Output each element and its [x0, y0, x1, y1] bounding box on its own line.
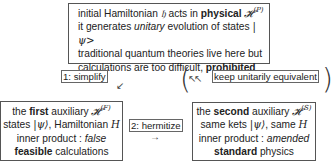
bold-second: second	[214, 106, 250, 117]
text: inner product :	[17, 133, 85, 144]
text: it generates	[78, 21, 134, 32]
text: , same	[265, 119, 298, 130]
text: same kets	[201, 119, 250, 130]
ket-symbol: |ψ⟩	[33, 119, 48, 130]
arrow-right-icon: →	[150, 131, 160, 142]
hilbert-space-symbol: 𝓗	[292, 106, 301, 117]
text: auxiliary	[48, 106, 91, 117]
text: acts in	[166, 8, 201, 19]
top-line-2: it generates unitary evolution of states…	[78, 20, 269, 47]
right-line-4: standard physics	[193, 145, 315, 158]
superscript: (F)	[100, 104, 110, 112]
text: evolution of states	[165, 21, 253, 32]
bold-physical: physical	[201, 8, 242, 19]
left-line-1: the first auxiliary 𝓗(F)	[1, 105, 122, 118]
hamiltonian-symbol: H	[299, 119, 308, 130]
left-line-3: inner product : false	[1, 132, 122, 145]
step-simplify-label: 1: simplify	[61, 70, 108, 83]
bold-standard: standard	[214, 146, 257, 157]
physical-space-box: initial Hamiltonian 𝔥 acts in physical 𝓗…	[68, 3, 270, 64]
italic-unitary: unitary	[134, 21, 165, 32]
hamiltonian-symbol: H	[111, 119, 120, 130]
left-line-4: feasible calculations	[1, 145, 122, 158]
right-line-1: the second auxiliary 𝓗(S)	[193, 105, 315, 118]
text: the	[12, 106, 29, 117]
text: calculations	[52, 146, 108, 157]
text: inner product :	[199, 133, 267, 144]
text: physics	[257, 146, 294, 157]
first-auxiliary-box: the first auxiliary 𝓗(F) states |ψ⟩, Ham…	[0, 101, 123, 161]
text: , Hamiltonian	[49, 119, 111, 130]
bold-first: first	[29, 106, 48, 117]
close-paren: )	[322, 66, 333, 94]
left-line-2: states |ψ⟩, Hamiltonian H	[1, 118, 122, 131]
superscript: (P)	[253, 6, 263, 14]
top-line-1: initial Hamiltonian 𝔥 acts in physical 𝓗…	[78, 7, 269, 20]
text: the	[197, 106, 214, 117]
text: states	[3, 119, 33, 130]
right-line-2: same kets |ψ⟩, same H	[193, 118, 315, 131]
top-line-3: traditional quantum theories live here b…	[78, 47, 269, 60]
right-line-3: inner product : amended	[193, 132, 315, 145]
bold-feasible: feasible	[14, 146, 52, 157]
italic-amended: amended	[267, 133, 309, 144]
text: initial Hamiltonian	[78, 8, 161, 19]
arrow-down-left-icon: ↙	[116, 80, 124, 91]
superscript: (S)	[301, 104, 311, 112]
italic-false: false	[85, 133, 107, 144]
arrow-up-left-icon: ↖↖	[188, 73, 200, 84]
ket-symbol: |ψ⟩	[250, 119, 265, 130]
second-auxiliary-box: the second auxiliary 𝓗(S) same kets |ψ⟩,…	[192, 102, 316, 161]
text: auxiliary	[249, 106, 292, 117]
keep-unitarily-equivalent-label: keep unitarily equivalent	[212, 70, 319, 83]
